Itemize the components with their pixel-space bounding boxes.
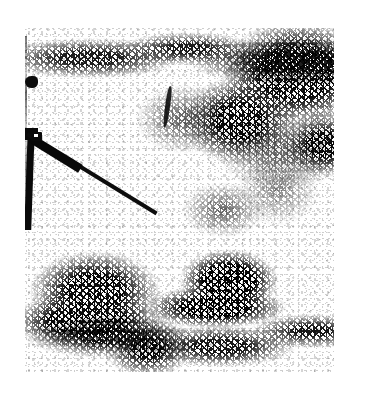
photograph-alt-text: Coarsely dithered black-and-white photog… (0, 0, 1, 1)
screenshot-canvas: Coarsely dithered black-and-white photog… (0, 0, 365, 400)
rifle-sight-notch (34, 134, 38, 137)
rifle (25, 28, 334, 372)
photograph (25, 28, 334, 372)
